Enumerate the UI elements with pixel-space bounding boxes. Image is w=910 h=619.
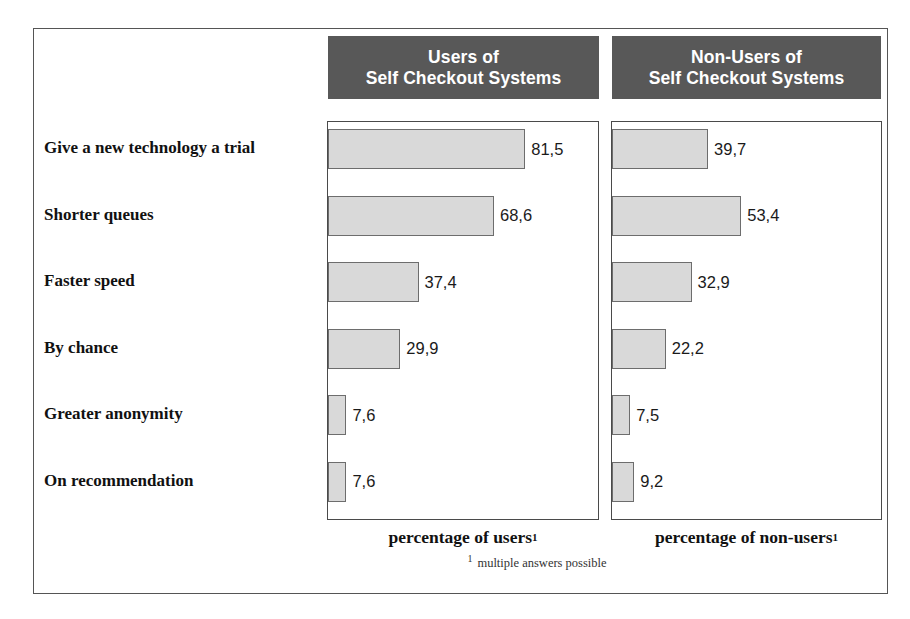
bar	[612, 395, 630, 435]
bar-row: 7,6	[328, 395, 375, 435]
bar-row: 53,4	[612, 196, 779, 236]
bar	[612, 262, 692, 302]
axis-caption-users-superscript: 1	[532, 531, 538, 543]
footnote-mark: 1	[467, 553, 472, 564]
bar-value-label: 7,6	[352, 407, 375, 424]
bar-value-label: 39,7	[714, 141, 746, 158]
bar-value-label: 53,4	[747, 207, 779, 224]
axis-caption-nonusers: percentage of non-users1	[611, 525, 882, 549]
bar	[612, 129, 708, 169]
bar-row: 68,6	[328, 196, 532, 236]
bar-row: 39,7	[612, 129, 746, 169]
bar-value-label: 37,4	[425, 274, 457, 291]
bar-value-label: 7,6	[352, 473, 375, 490]
category-label: By chance	[44, 328, 322, 368]
panel-header-users-line1: Users of	[428, 47, 499, 68]
bar-value-label: 9,2	[640, 473, 663, 490]
bar-row: 22,2	[612, 329, 704, 369]
footnote: 1multiple answers possible	[327, 553, 747, 571]
bar-value-label: 29,9	[406, 340, 438, 357]
bar-rows-nonusers: 39,753,432,922,27,59,2	[612, 122, 881, 519]
chart-figure: Users of Self Checkout Systems Non-Users…	[33, 28, 888, 594]
plot-area-users: 81,568,637,429,97,67,6	[327, 121, 599, 520]
bar	[612, 329, 666, 369]
bar	[612, 196, 741, 236]
category-label: Faster speed	[44, 261, 322, 301]
panel-header-nonusers-line1: Non-Users of	[691, 47, 802, 68]
bar	[328, 395, 346, 435]
bar-value-label: 81,5	[531, 141, 563, 158]
bar-row: 9,2	[612, 462, 663, 502]
panel-header-nonusers: Non-Users of Self Checkout Systems	[612, 36, 881, 99]
bar-row: 81,5	[328, 129, 563, 169]
panel-header-nonusers-line2: Self Checkout Systems	[649, 68, 845, 89]
bar-row: 7,6	[328, 462, 375, 502]
axis-caption-nonusers-text: percentage of non-users	[655, 527, 833, 548]
category-label: Greater anonymity	[44, 394, 322, 434]
panel-header-users: Users of Self Checkout Systems	[328, 36, 599, 99]
bar	[328, 262, 419, 302]
category-label: Shorter queues	[44, 195, 322, 235]
category-axis-labels: Give a new technology a trialShorter que…	[44, 121, 322, 520]
bar-row: 32,9	[612, 262, 730, 302]
bar	[328, 329, 400, 369]
bar-value-label: 32,9	[698, 274, 730, 291]
bar	[328, 129, 525, 169]
plot-area-nonusers: 39,753,432,922,27,59,2	[611, 121, 882, 520]
axis-caption-nonusers-superscript: 1	[833, 531, 839, 543]
bar-value-label: 22,2	[672, 340, 704, 357]
footnote-text: multiple answers possible	[477, 556, 606, 570]
category-label: On recommendation	[44, 461, 322, 501]
bar	[612, 462, 634, 502]
axis-caption-users-text: percentage of users	[388, 527, 532, 548]
axis-caption-users: percentage of users1	[327, 525, 599, 549]
bar	[328, 196, 494, 236]
category-label: Give a new technology a trial	[44, 128, 322, 168]
panel-header-users-line2: Self Checkout Systems	[366, 68, 562, 89]
bar-value-label: 68,6	[500, 207, 532, 224]
bar-value-label: 7,5	[636, 407, 659, 424]
bar-row: 7,5	[612, 395, 659, 435]
bar-row: 29,9	[328, 329, 438, 369]
bar	[328, 462, 346, 502]
bar-row: 37,4	[328, 262, 457, 302]
bar-rows-users: 81,568,637,429,97,67,6	[328, 122, 598, 519]
